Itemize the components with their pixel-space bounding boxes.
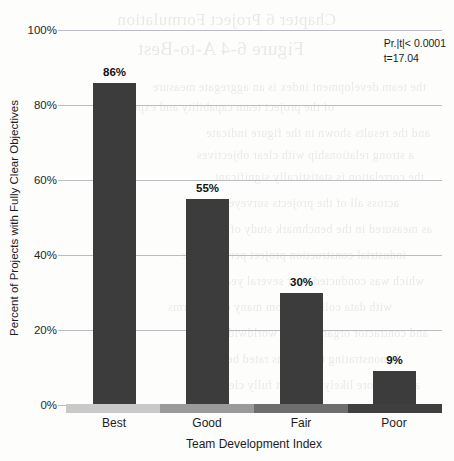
statistics-annotation: Pr.|t|< 0.0001 t=17.04 — [384, 36, 446, 66]
y-tick-label: 0% — [40, 399, 57, 411]
y-tick-label: 60% — [34, 174, 57, 186]
bleed-text-line: Chapter 6 Project Formulation — [117, 10, 336, 30]
bar-chart-figure: Chapter 6 Project Formulation Figure 6-4… — [0, 0, 454, 461]
y-tick-mark — [58, 405, 66, 406]
bar-fair[interactable]: 30% — [280, 293, 323, 406]
x-axis-title: Team Development Index — [66, 437, 442, 451]
y-tick-label: 80% — [34, 99, 57, 111]
x-tick-label-good: Good — [192, 416, 221, 430]
y-tick-mark — [58, 255, 66, 256]
y-axis-title: Percent of Projects with Fully Clear Obj… — [8, 100, 20, 336]
y-tick-label: 40% — [34, 249, 57, 261]
x-axis-segment-good — [160, 404, 254, 413]
x-axis-segment-poor — [348, 404, 442, 413]
y-tick-mark — [58, 330, 66, 331]
y-tick-label: 20% — [34, 324, 57, 336]
p-value-text: Pr.|t|< 0.0001 — [384, 36, 446, 51]
y-tick-mark — [58, 180, 66, 181]
plot-area: 100% 80% 60% 40% 20% 0% 86% 55% — [66, 30, 442, 405]
x-tick-label-fair: Fair — [291, 416, 312, 430]
gridline-100: 100% — [66, 30, 442, 31]
bar-value-label: 86% — [103, 66, 126, 78]
x-axis-segment-fair — [254, 404, 348, 413]
t-statistic-text: t=17.04 — [384, 51, 446, 66]
bar-value-label: 55% — [196, 182, 219, 194]
bar-best[interactable]: 86% — [93, 83, 136, 406]
y-tick-mark — [58, 30, 66, 31]
bar-value-label: 9% — [386, 354, 403, 366]
x-axis-segment-best — [66, 404, 160, 413]
x-axis-gradient-strip — [66, 404, 442, 413]
x-tick-label-best: Best — [102, 416, 126, 430]
bar-poor[interactable]: 9% — [373, 371, 416, 405]
bar-value-label: 30% — [290, 276, 313, 288]
y-tick-label: 100% — [28, 24, 57, 36]
x-tick-label-poor: Poor — [381, 416, 406, 430]
bar-good[interactable]: 55% — [186, 199, 229, 405]
y-tick-mark — [58, 105, 66, 106]
